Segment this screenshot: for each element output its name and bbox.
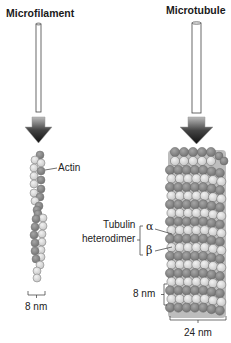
microtubule-width-label: 24 nm — [184, 327, 212, 338]
microfilament-rod-icon — [36, 23, 41, 112]
diagram-canvas — [0, 0, 231, 343]
microtubule-arrow-icon — [180, 117, 213, 144]
microfilament-width-label: 8 nm — [25, 301, 47, 312]
beta-label: β — [146, 244, 152, 257]
microtubule-rod-icon — [192, 22, 201, 113]
alpha-label: α — [146, 220, 153, 233]
tubulin-label-line1: Tubulin — [103, 219, 135, 230]
microtubule-period-bracket — [161, 284, 167, 305]
actin-label: Actin — [58, 162, 80, 173]
tubulin-label-line2: heterodimer — [82, 233, 135, 244]
microfilament-width-bracket — [28, 291, 45, 298]
actin-leader-line — [45, 168, 57, 170]
actin-filament-icon — [30, 151, 47, 282]
microfilament-arrow-icon — [25, 117, 52, 143]
microtubule-cylinder-icon — [165, 147, 228, 318]
microtubule-period-label: 8 nm — [133, 288, 155, 299]
